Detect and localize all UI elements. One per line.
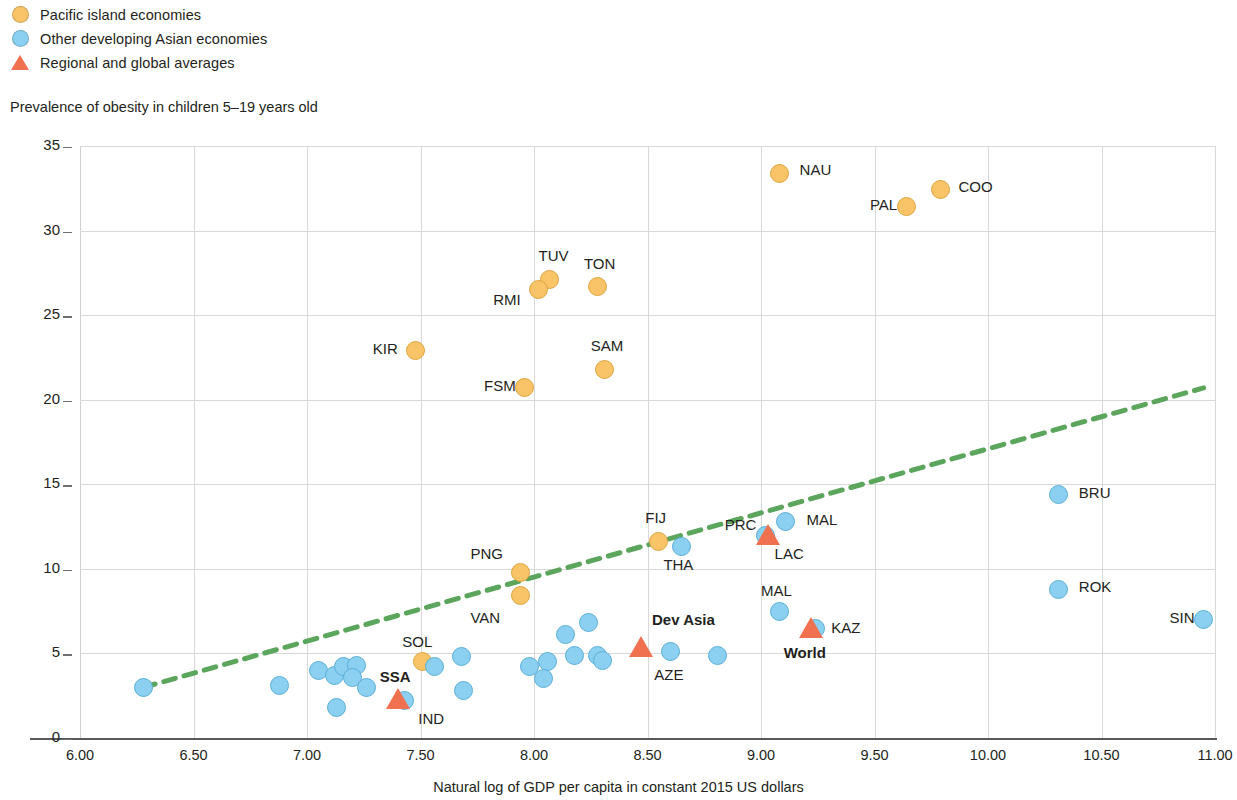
grid-line-horizontal — [80, 146, 1215, 147]
x-tick-label: 9.50 — [830, 747, 920, 763]
data-point — [565, 646, 584, 665]
data-point-pal — [897, 197, 916, 216]
grid-line-vertical — [307, 146, 308, 738]
point-label-nau: NAU — [800, 161, 832, 178]
y-tick-mark — [63, 401, 72, 402]
data-point-png — [511, 563, 530, 582]
data-point-aze — [661, 642, 680, 661]
y-tick-mark — [63, 739, 72, 740]
point-label-dev-asia: Dev Asia — [652, 611, 715, 628]
point-label-ton: TON — [584, 255, 615, 272]
grid-line-horizontal — [80, 569, 1215, 570]
data-point — [452, 647, 471, 666]
point-label-ind: IND — [418, 710, 444, 727]
x-tick-label: 7.50 — [376, 747, 466, 763]
point-label-fij: FIJ — [645, 509, 666, 526]
grid-line-vertical — [875, 146, 876, 738]
y-tick-label: 35 — [8, 136, 60, 153]
data-point-mal — [770, 602, 789, 621]
average-marker-dev-asia — [629, 636, 653, 657]
data-point-kir — [406, 341, 425, 360]
point-label-png: PNG — [470, 545, 503, 562]
data-point-coo — [931, 180, 950, 199]
x-tick-label: 6.50 — [149, 747, 239, 763]
grid-line-vertical — [534, 146, 535, 738]
grid-line-horizontal — [80, 231, 1215, 232]
data-point — [357, 678, 376, 697]
data-point — [327, 698, 346, 717]
data-point — [454, 681, 473, 700]
average-marker-world — [799, 617, 823, 638]
y-tick-label: 20 — [8, 390, 60, 407]
y-tick-label: 15 — [8, 474, 60, 491]
average-marker-ssa — [386, 688, 410, 709]
data-point — [708, 646, 727, 665]
data-point — [579, 613, 598, 632]
point-label-sin: SIN — [1170, 609, 1195, 626]
point-label-kaz: KAZ — [831, 619, 860, 636]
y-tick-label: 25 — [8, 305, 60, 322]
average-marker-lac — [756, 524, 780, 545]
data-point-nau — [770, 164, 789, 183]
point-label-rok: ROK — [1079, 578, 1112, 595]
data-point-rmi — [529, 280, 548, 299]
point-label-pal: PAL — [870, 196, 897, 213]
point-label-aze: AZE — [654, 666, 683, 683]
grid-line-vertical — [988, 146, 989, 738]
point-label-mal: MAL — [806, 511, 837, 528]
y-tick-mark — [63, 654, 72, 655]
data-point — [534, 669, 553, 688]
point-label-lac: LAC — [775, 545, 804, 562]
point-label-ssa: SSA — [380, 668, 411, 685]
x-tick-label: 7.00 — [262, 747, 352, 763]
data-point-van — [511, 586, 530, 605]
point-label-prc: PRC — [725, 516, 757, 533]
data-point — [270, 676, 289, 695]
grid-line-vertical — [1215, 146, 1216, 738]
point-label-mal: MAL — [761, 582, 792, 599]
x-tick-label: 8.50 — [603, 747, 693, 763]
y-tick-label: 0 — [8, 728, 60, 745]
x-axis-line — [30, 738, 1217, 740]
grid-line-vertical — [761, 146, 762, 738]
grid-line-vertical — [1102, 146, 1103, 738]
point-label-world: World — [784, 644, 826, 661]
grid-line-horizontal — [80, 315, 1215, 316]
x-tick-label: 6.00 — [35, 747, 125, 763]
data-point-ton — [588, 277, 607, 296]
data-point-fsm — [515, 378, 534, 397]
point-label-van: VAN — [470, 609, 500, 626]
x-axis-title: Natural log of GDP per capita in constan… — [0, 779, 1237, 795]
x-tick-label: 10.50 — [1057, 747, 1147, 763]
data-point — [134, 678, 153, 697]
point-label-fsm: FSM — [484, 377, 516, 394]
data-point-bru — [1049, 485, 1068, 504]
x-tick-label: 11.00 — [1170, 747, 1237, 763]
point-label-rmi: RMI — [493, 291, 521, 308]
y-tick-mark — [63, 316, 72, 317]
data-point — [593, 651, 612, 670]
data-point — [425, 657, 444, 676]
y-tick-mark — [63, 147, 72, 148]
grid-line-vertical — [80, 146, 81, 738]
y-tick-label: 10 — [8, 559, 60, 576]
grid-line-horizontal — [80, 484, 1215, 485]
y-tick-mark — [63, 232, 72, 233]
y-tick-label: 30 — [8, 221, 60, 238]
x-tick-label: 8.00 — [489, 747, 579, 763]
data-point-sin — [1194, 610, 1213, 629]
data-point — [556, 625, 575, 644]
y-tick-label: 5 — [8, 643, 60, 660]
point-label-sam: SAM — [591, 337, 624, 354]
grid-line-vertical — [194, 146, 195, 738]
data-point-fij — [649, 532, 668, 551]
x-tick-label: 10.00 — [943, 747, 1033, 763]
point-label-coo: COO — [958, 178, 992, 195]
data-point-tha — [672, 537, 691, 556]
point-label-kir: KIR — [373, 340, 398, 357]
point-label-sol: SOL — [402, 633, 432, 650]
x-tick-label: 9.00 — [716, 747, 806, 763]
point-label-tuv: TUV — [539, 247, 569, 264]
y-tick-mark — [63, 570, 72, 571]
point-label-bru: BRU — [1079, 484, 1111, 501]
